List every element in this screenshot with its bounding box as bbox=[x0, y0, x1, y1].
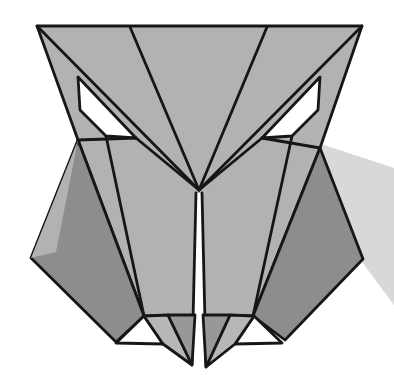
origami-figure bbox=[0, 0, 394, 377]
origami-owl-svg bbox=[0, 0, 394, 377]
